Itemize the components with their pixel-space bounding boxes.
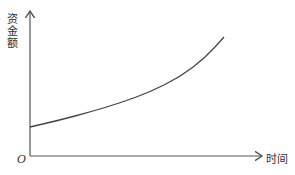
growth-curve — [30, 37, 224, 127]
y-axis-label: 资金额 — [5, 14, 19, 50]
x-axis-label: 时间 — [266, 150, 288, 166]
chart-canvas — [0, 0, 295, 175]
origin-label: O — [17, 153, 26, 166]
